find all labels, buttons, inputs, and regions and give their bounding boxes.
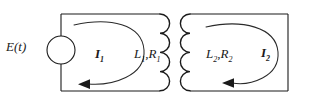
current-i2-subscript: 2: [266, 54, 270, 63]
primary-current-arrowhead: [78, 79, 90, 89]
secondary-loop-wiring: [190, 14, 288, 91]
resistor-r2-subscript: 2: [228, 55, 232, 64]
resistor-r1-subscript: 1: [156, 55, 160, 64]
current-i1-label: I1: [95, 47, 104, 64]
secondary-coil-L2R2: [180, 14, 190, 91]
primary-coil-L1R1: [160, 14, 170, 91]
current-i2-label: I2: [261, 46, 270, 63]
secondary-coil-winding: [180, 14, 190, 91]
coupled-inductor-circuit-figure: E(t) I1 L1,R1 L2,R2 I2: [0, 0, 310, 105]
primary-coil-winding: [160, 14, 170, 91]
secondary-current-arrowhead: [222, 78, 234, 88]
inductor-resistor-2-label: L2,R2: [206, 47, 232, 64]
voltage-source-label: E(t): [6, 40, 26, 53]
voltage-source-symbol: [47, 36, 75, 64]
inductor-resistor-1-label: L1,R1: [134, 47, 160, 64]
current-i1-subscript: 1: [100, 55, 104, 64]
